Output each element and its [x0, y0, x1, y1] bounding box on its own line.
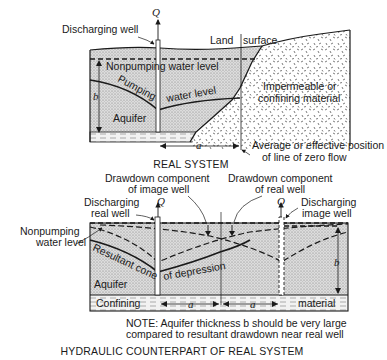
q-real-label: Q [157, 195, 165, 207]
hydraulic-counterpart-title: HYDRAULIC COUNTERPART OF REAL SYSTEM [60, 345, 303, 357]
material-label: material [298, 297, 335, 309]
discharging-real-label-2: real well [91, 207, 130, 219]
real-system-diagram: Discharging well Q Land surface Nonpumpi… [62, 6, 384, 170]
impermeable-label-1: Impermeable or [263, 80, 337, 92]
aquifer-label-2: Aquifer [94, 278, 128, 290]
a-right-label: a [250, 298, 256, 310]
discharging-well-label: Discharging well [62, 23, 138, 35]
zero-flow-label-2: of line of zero flow [262, 151, 347, 163]
aquifer-label: Aquifer [113, 112, 147, 124]
drawdown-real-label-2: of real well [255, 183, 305, 195]
a-label: a [196, 139, 202, 151]
a-left-label: a [188, 298, 194, 310]
note-line-2: compared to resultant drawdown near real… [126, 328, 344, 340]
b-label: b [93, 90, 99, 102]
nonpumping-label-2: water level [35, 236, 86, 248]
discharging-image-label-2: image well [302, 207, 352, 219]
aquifer-image-well-diagram: Discharging well Q Land surface Nonpumpi… [0, 0, 387, 360]
land-label: Land [210, 34, 234, 46]
drawdown-image-label-2: of image well [128, 183, 189, 195]
surface-label: surface [243, 34, 278, 46]
confining-label: Confining [96, 297, 141, 309]
impermeable-label-2: confining material [258, 92, 340, 104]
real-system-title: REAL SYSTEM [153, 158, 228, 170]
hydraulic-counterpart-diagram: Drawdown component of image well Drawdow… [20, 172, 357, 357]
nonpumping-water-level-label: Nonpumping water level [106, 60, 219, 72]
zero-flow-label-1: Average or effective position [252, 139, 384, 151]
b-label-2: b [334, 256, 340, 268]
q-label: Q [152, 6, 160, 18]
q-image-label: Q [277, 195, 285, 207]
